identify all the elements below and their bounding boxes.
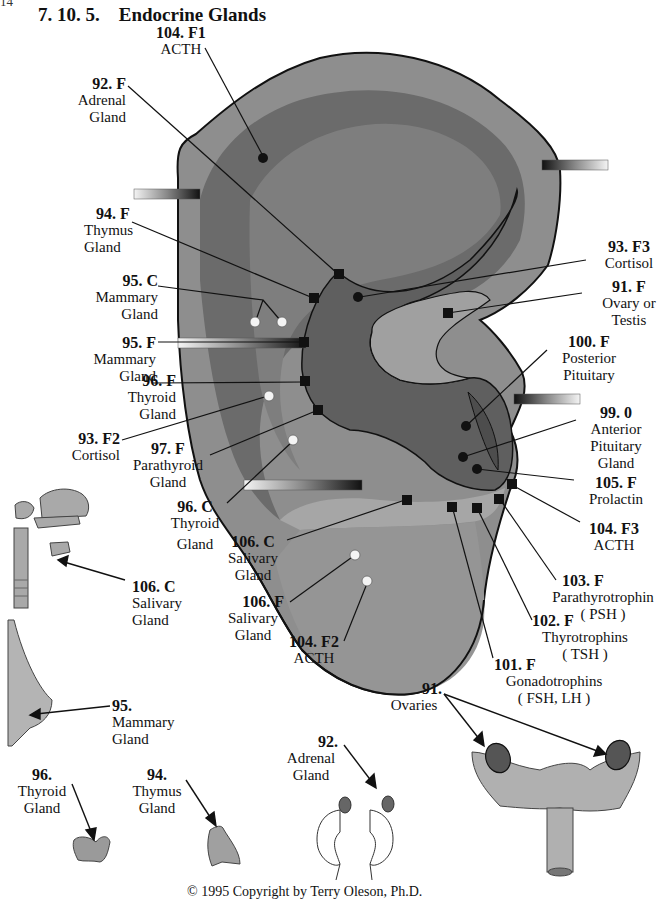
organ-label-91: 91.Ovaries	[386, 680, 442, 714]
point-103F	[494, 494, 504, 504]
point-95C-b	[277, 317, 287, 327]
label-95C: 95. CMammaryGland	[70, 272, 158, 323]
label-93F3: 93. F3Cortisol	[598, 238, 660, 272]
kidneys-illustration	[317, 796, 394, 880]
pointer-bar	[178, 338, 306, 348]
head-neck-illustration	[14, 489, 89, 608]
label-101F: 101. FGonadotrophins( FSH, LH )	[494, 656, 614, 707]
organ-label-96: 96.ThyroidGland	[14, 766, 70, 817]
section-number: 7. 10. 5.	[38, 4, 100, 25]
copyright-notice: © 1995 Copyright by Terry Oleson, Ph.D.	[187, 884, 422, 900]
organ-label-92: 92.AdrenalGland	[284, 733, 338, 784]
label-93F2: 93. F2Cortisol	[60, 430, 120, 464]
pointer-bar	[514, 394, 580, 404]
label-97F: 97. FParathyroidGland	[128, 440, 208, 491]
label-92F: 92. FAdrenalGland	[70, 75, 126, 126]
point-100F	[461, 421, 471, 431]
point-104F2	[362, 576, 372, 586]
label-104F2: 104. F2ACTH	[286, 633, 342, 667]
diagram-page: 14 7. 10. 5. Endocrine Glands 104. F1ACT…	[0, 0, 660, 904]
point-104F1	[258, 153, 268, 163]
pointer-bar	[542, 160, 608, 170]
organ-label-95: 95.MammaryGland	[112, 697, 174, 748]
label-105F: 105. FProlactin	[584, 474, 648, 508]
pointer-bar	[134, 189, 200, 199]
point-101F	[447, 502, 457, 512]
breast-illustration	[8, 620, 52, 746]
point-95C-a	[250, 317, 260, 327]
point-990	[458, 452, 468, 462]
point-93F3	[353, 292, 363, 302]
label-104F1: 104. F1ACTH	[156, 24, 206, 58]
label-100F: 100. FPosteriorPituitary	[556, 333, 622, 384]
label-96F: 96. FThyroidGland	[100, 372, 176, 423]
point-91F	[443, 308, 453, 318]
point-94F	[309, 293, 319, 303]
point-93F2	[264, 391, 274, 401]
label-104F3: 104. F3ACTH	[582, 520, 646, 554]
label-96C: 96. CThyroidGland	[168, 498, 222, 553]
label-91F: 91. FOvary orTestis	[598, 278, 660, 329]
organ-label-94: 94.ThymusGland	[130, 766, 184, 817]
point-102F	[472, 503, 482, 513]
label-990: 99. 0AnteriorPituitaryGland	[584, 404, 648, 472]
point-104F3	[507, 479, 517, 489]
pointer-bar	[244, 480, 362, 490]
point-96C	[288, 435, 298, 445]
point-96F	[300, 376, 310, 386]
ear-lobe	[275, 522, 485, 695]
section-heading: Endocrine Glands	[119, 4, 266, 25]
organ-label-106C: 106. CSalivaryGland	[132, 578, 182, 629]
point-106F	[350, 550, 360, 560]
label-106C: 106. CSalivaryGland	[222, 533, 284, 584]
point-106C	[402, 495, 412, 505]
label-94F: 94. FThymusGland	[84, 205, 133, 256]
label-106F: 106. FSalivaryGland	[222, 593, 284, 644]
thyroid-illustration	[73, 837, 110, 862]
point-105F	[472, 464, 482, 474]
point-97F	[313, 405, 323, 415]
point-92F	[334, 269, 344, 279]
thymus-illustration	[208, 826, 240, 866]
page-number: 14	[0, 0, 13, 10]
point-95F	[299, 337, 309, 347]
section-title: 7. 10. 5. Endocrine Glands	[38, 4, 266, 26]
